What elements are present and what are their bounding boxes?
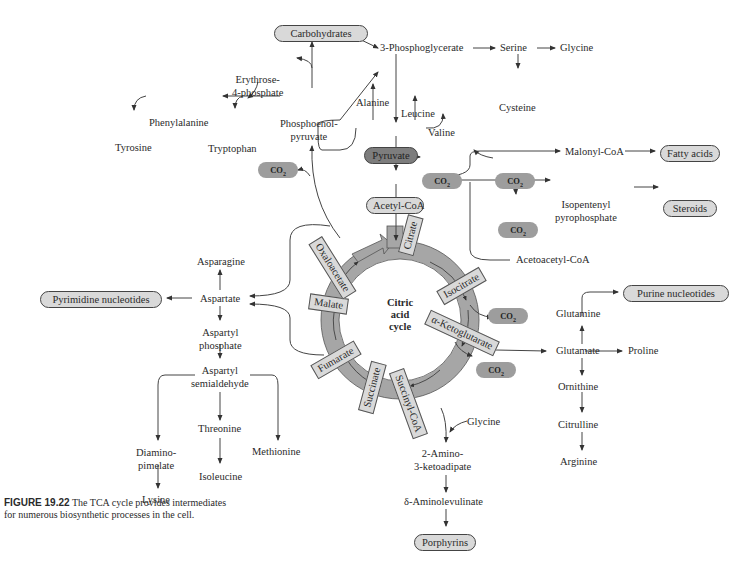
ornithine-node: Ornithine — [558, 381, 598, 393]
co2-text: CO — [507, 176, 520, 186]
purine-nucleotides-node: Purine nucleotides — [623, 285, 729, 302]
aspartyl-s-line2: semialdehyde — [191, 378, 249, 389]
cycle-label-line1: Citric — [387, 297, 413, 308]
co2-malonyl: CO2 — [495, 173, 535, 189]
co2-pep: CO2 — [258, 162, 298, 178]
cycle-label-line2: acid — [391, 309, 410, 320]
co2-isopentenyl: CO2 — [498, 222, 538, 238]
pep-line1: Phosphoenol- — [280, 118, 338, 129]
phosphoglycerate-node: 3-Phosphoglycerate — [380, 42, 463, 54]
malonyl-coa-node: Malonyl-CoA — [565, 146, 624, 158]
fatty-acids-node: Fatty acids — [660, 145, 720, 162]
erythrose-line2: 4-phosphate — [232, 87, 283, 98]
carbohydrates-node: Carbohydrates — [274, 25, 368, 42]
acetyl-coa-node: Acetyl-CoA — [366, 197, 424, 214]
glycine-bottom-node: Glycine — [467, 416, 500, 428]
amino-keto-line2: 3-ketoadipate — [414, 461, 471, 472]
co2-sub: 2 — [513, 317, 516, 323]
tyrosine-node: Tyrosine — [115, 142, 152, 154]
erythrose-line1: Erythrose- — [236, 74, 280, 85]
valine-node: Valine — [428, 127, 455, 139]
cycle-center-label: Citricacidcycle — [380, 297, 420, 333]
aspartyl-semialdehyde-node: Aspartylsemialdehyde — [191, 364, 249, 390]
isopentenyl-line1: Isopentenyl — [561, 199, 610, 210]
threonine-node: Threonine — [198, 423, 241, 435]
alanine-node: Alanine — [356, 97, 389, 109]
co2-sub: 2 — [501, 371, 504, 377]
phenylalanine-node: Phenylalanine — [149, 117, 208, 129]
glutamine-node: Glutamine — [556, 308, 600, 320]
amino-keto-line1: 2-Amino- — [422, 448, 463, 459]
erythrose-node: Erythrose-4-phosphate — [232, 73, 283, 99]
glutamate-node: Glutamate — [556, 345, 600, 357]
porphyrins-node: Porphyrins — [414, 534, 476, 551]
figure-caption: FIGURE 19.22 The TCA cycle provides inte… — [4, 497, 234, 521]
isoleucine-node: Isoleucine — [199, 471, 242, 483]
tryptophan-node: Tryptophan — [208, 143, 257, 155]
isopentenyl-node: Isopentenylpyrophosphate — [555, 198, 617, 224]
co2-sub: 2 — [447, 182, 450, 188]
arginine-node: Arginine — [560, 456, 597, 468]
co2-sub: 2 — [520, 182, 523, 188]
leucine-node: Leucine — [401, 108, 435, 120]
diamino-line2: pimelate — [138, 460, 174, 471]
pep-line2: pyruvate — [291, 131, 328, 142]
pathway-arrows — [0, 0, 748, 567]
co2-pyruvate: CO2 — [422, 173, 462, 189]
diamino-line1: Diamino- — [136, 447, 176, 458]
figure-number: FIGURE 19.22 — [4, 497, 70, 508]
serine-node: Serine — [500, 42, 527, 54]
citrulline-node: Citrulline — [558, 419, 598, 431]
glycine-node: Glycine — [560, 42, 593, 54]
co2-text: CO — [510, 225, 523, 235]
co2-ketoglutarate: CO2 — [476, 362, 516, 378]
aspartyl-s-line1: Aspartyl — [202, 365, 238, 376]
co2-text: CO — [270, 165, 283, 175]
steroids-node: Steroids — [663, 200, 717, 217]
co2-text: CO — [434, 176, 447, 186]
pyrimidine-nucleotides-node: Pyrimidine nucleotides — [40, 291, 162, 308]
co2-isocitrate: CO2 — [488, 308, 528, 324]
isopentenyl-line2: pyrophosphate — [555, 212, 617, 223]
proline-node: Proline — [628, 345, 658, 357]
asparagine-node: Asparagine — [197, 256, 245, 268]
co2-sub: 2 — [283, 171, 286, 177]
aspartyl-p-line1: Aspartyl — [202, 327, 238, 338]
pep-node: Phosphoenol-pyruvate — [280, 117, 338, 143]
pyruvate-node: Pyruvate — [364, 147, 418, 164]
methionine-node: Methionine — [252, 446, 300, 458]
co2-sub: 2 — [523, 231, 526, 237]
aminolevulinate-node: δ-Aminolevulinate — [404, 496, 483, 508]
aspartyl-p-line2: phosphate — [199, 340, 242, 351]
co2-text: CO — [488, 365, 501, 375]
aspartyl-phosphate-node: Aspartylphosphate — [199, 326, 242, 352]
cysteine-node: Cysteine — [499, 102, 536, 114]
co2-text: CO — [500, 311, 513, 321]
cycle-label-line3: cycle — [389, 321, 411, 332]
acetoacetyl-coa-node: Acetoacetyl-CoA — [516, 254, 589, 266]
aspartate-node: Aspartate — [200, 293, 240, 305]
diaminopimelate-node: Diamino-pimelate — [136, 446, 176, 472]
amino-ketoadipate-node: 2-Amino-3-ketoadipate — [414, 447, 471, 473]
